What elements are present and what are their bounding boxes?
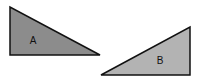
triangles-diagram: A B (0, 0, 198, 81)
triangle-b (101, 27, 190, 75)
triangle-a-label: A (30, 35, 37, 46)
triangle-a (10, 7, 100, 55)
triangle-b-label: B (157, 55, 164, 66)
